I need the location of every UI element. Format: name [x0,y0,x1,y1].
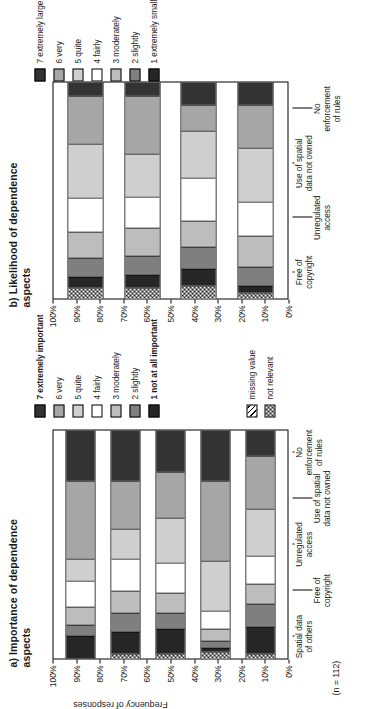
x-axis-category-label: Free of copyright [294,255,314,288]
legend-item[interactable]: 1 extremely small [148,9,159,81]
legend-swatch-icon [72,68,83,81]
legend-item[interactable]: 6 very [53,9,64,81]
legend-item[interactable]: 2 slightly [129,9,140,81]
legend-item[interactable]: 4 fairly [91,9,102,81]
x-axis-tick-mark [292,216,312,217]
x-axis-category-label: Unregulated access [294,522,314,567]
legend-item[interactable]: 5 quite [72,9,83,81]
bar-segment [125,82,159,95]
y-axis-tick: 100% [47,299,57,343]
legend-swatch-icon [53,68,64,81]
legend-item[interactable]: 4 fairly [91,345,102,417]
y-axis-tick: 100% [47,659,57,703]
y-axis-tick-mark [288,659,289,663]
y-axis-tick-mark [288,299,289,303]
y-axis-tick: 0% [283,299,293,343]
y-axis-tick: 70% [118,299,128,343]
legend-item[interactable]: 7 extremely important [34,345,45,417]
x-axis-category-label: No enforcement of rules [294,429,324,475]
bar-segment [156,430,184,471]
bar-segment [66,606,94,624]
legend-item[interactable]: 7 extremely large [34,9,45,81]
legend-swatch-icon [110,68,121,81]
legend-item-label: 4 fairly [92,375,101,399]
legend-item[interactable]: 2 slightly [129,345,140,417]
bar-segment [68,95,102,143]
bar-segment [246,583,274,604]
y-axis-tick-mark [217,659,218,663]
x-axis-labels-a: Spatial data of othersFree of copyrightU… [292,429,352,659]
bar-segment [125,197,159,227]
bar-segment [68,197,102,232]
y-axis-tick-mark [194,659,195,663]
x-axis-category-label: Unregulated access [312,195,332,240]
y-axis-tick: 90% [71,659,81,703]
y-axis-tick-mark [241,659,242,663]
legend-item[interactable]: 1 not at all important [148,345,159,417]
bar-segment [238,235,272,265]
legend-item[interactable]: 6 very [53,345,64,417]
bar-row [110,430,140,658]
panel-importance: a) Importance of dependence aspects Freq… [0,343,391,703]
legend-item-label: 4 fairly [92,39,101,63]
bar-row [180,82,216,298]
legend-item[interactable]: 3 moderately [110,9,121,81]
bar-segment [125,255,159,274]
y-axis-tick: 30% [212,299,222,343]
bar-row [67,82,103,298]
bar-segment [66,558,94,581]
bar-segment [238,82,272,104]
bar-row [245,430,275,658]
legend-item[interactable]: not relevant [264,337,275,417]
bar-segment [125,153,159,196]
bar-segment [201,430,229,480]
bar-segment [111,612,139,630]
bar-segment [111,430,139,480]
bar-segment [246,603,274,626]
y-axis-tick-mark [52,659,53,663]
x-axis-tick-mark [292,543,294,544]
bar-segment [201,647,229,652]
legend-item-label: 3 moderately [111,16,120,63]
x-axis-tick-mark [292,635,294,636]
legend-swatch-icon [53,404,64,417]
y-axis-tick-mark [170,659,171,663]
bar-group-b [53,82,287,298]
bar-segment [156,562,184,592]
bar-segment [66,581,94,606]
y-axis-tick-mark [123,299,124,303]
y-axis-tick-mark [76,299,77,303]
y-axis-tick-mark [241,299,242,303]
bar-segment [246,653,274,658]
bar-segment [201,640,229,647]
y-axis-tick: 50% [165,659,175,703]
bar-segment [156,517,184,563]
bar-segment [68,257,102,276]
bar-row [237,82,273,298]
y-axis-tick: 70% [118,659,128,703]
x-axis-tick-mark [292,451,294,452]
legend-item[interactable]: missing value [246,337,257,417]
bar-segment [68,143,102,197]
bar-segment [238,266,272,285]
legend-swatch-icon [72,404,83,417]
panel-likelihood: b) Likelihood of dependence aspects 100%… [0,0,391,343]
bar-row [65,430,95,658]
legend-item[interactable]: 3 moderately [110,345,121,417]
y-axis-tick: 10% [259,299,269,343]
legend-swatch-icon [34,68,45,81]
y-axis-tick-mark [264,299,265,303]
legend-item[interactable]: 5 quite [72,345,83,417]
y-axis-tick-mark [170,299,171,303]
bar-segment [125,287,159,298]
bar-segment [246,555,274,582]
bar-segment [66,624,94,635]
y-axis-tick-mark [99,659,100,663]
bar-row [200,430,230,658]
bar-segment [66,635,94,658]
bar-segment [156,612,184,628]
bar-segment [66,480,94,558]
bar-segment [111,480,139,528]
bar-segment [125,95,159,153]
